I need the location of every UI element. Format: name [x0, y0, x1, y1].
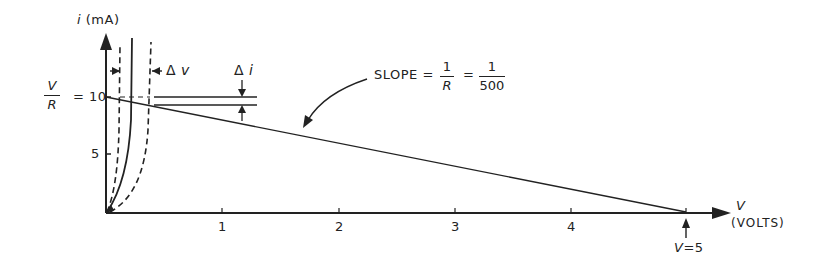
delta-i-var: i — [249, 62, 253, 78]
delta-i-down-arrowhead-icon — [238, 89, 246, 97]
y-axis-arrow-icon — [100, 33, 112, 50]
v-equals-5-label: V=5 — [674, 240, 704, 255]
v-over-r-fraction: V R — [44, 78, 60, 112]
x-tick-label-4: 4 — [567, 219, 576, 234]
delta-v-right-arrowhead-icon — [152, 67, 160, 75]
v5-var: V — [674, 240, 683, 255]
v-over-r-denominator: R — [47, 97, 56, 112]
iv-diagram — [0, 0, 828, 274]
x-axis-arrow-icon — [712, 207, 731, 219]
slope-label: SLOPE = — [374, 67, 434, 82]
slope-pointer-arrowhead-icon — [303, 115, 313, 128]
x-tick-label-3: 3 — [451, 219, 460, 234]
y-axis — [100, 33, 112, 213]
delta-v-left-arrowhead-icon — [112, 67, 120, 75]
y-axis-var: i — [77, 12, 81, 27]
v-over-r-numerator: V — [48, 78, 57, 93]
x-axis-var: V — [736, 198, 745, 213]
slope-frac1-denominator: R — [442, 78, 451, 93]
slope-equals: = — [463, 67, 474, 82]
y-tick-label-5: 5 — [91, 146, 100, 161]
v5-up-arrowhead-icon — [682, 218, 690, 228]
v5-value: =5 — [683, 240, 703, 255]
delta-v-label: Δ v — [166, 62, 190, 78]
y-tick-label-10: = 10 — [73, 89, 107, 104]
slope-fraction-1: 1 R — [440, 59, 454, 93]
slope-frac2-denominator: 500 — [480, 78, 505, 93]
x-axis-unit: (VOLTS) — [731, 216, 785, 230]
slope-frac1-numerator: 1 — [443, 59, 451, 74]
delta-i-up-arrowhead-icon — [238, 105, 246, 113]
y-axis-label: i (mA) — [77, 12, 119, 27]
delta-symbol: Δ — [166, 62, 176, 78]
delta-v-var: v — [181, 62, 190, 78]
slope-frac2-numerator: 1 — [488, 59, 496, 74]
load-line — [106, 97, 686, 212]
slope-fraction-2: 1 500 — [479, 59, 505, 93]
slope-pointer-arrow — [308, 79, 367, 120]
x-tick-label-2: 2 — [335, 219, 344, 234]
delta-i-label: Δ i — [234, 62, 253, 78]
y-axis-unit: (mA) — [86, 12, 120, 27]
diode-curve-nominal — [107, 38, 132, 212]
delta-symbol: Δ — [234, 62, 244, 78]
x-tick-label-1: 1 — [218, 219, 227, 234]
x-axis — [106, 207, 731, 219]
